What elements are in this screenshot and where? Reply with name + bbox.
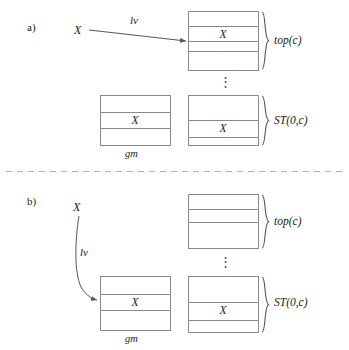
panel-a-st-box [189,96,259,146]
panel-b-source-var: X [73,201,80,213]
panel-b-gm-struct-label: gm [125,334,138,345]
panel-b-gm-cell-value: X [100,297,170,309]
panel-a-vertical-ellipsis: ⋮ [219,75,232,88]
panel-b-edge-label: lv [80,247,88,258]
panel-a-lv-arrow [89,30,186,41]
panel-b-lv-arrow [76,216,97,300]
panel-b-st-group-label: ST(0,c) [274,297,308,309]
panel-b-top-c-box [189,195,259,249]
panel-a-source-var: X [74,24,81,36]
panel-b-st-cell-value: X [188,305,258,317]
panel-a-edge-label: lv [130,15,138,26]
panel-a-label: a) [27,22,36,33]
panel-a-top-c-cell-value: X [188,29,258,41]
panel-a-st-group-label: ST(0,c) [274,115,308,127]
figure-root: a) X lv X top(c) ⋮ X gm X ST(0,c) b) X l… [0,0,349,350]
panel-a-gm-cell-value: X [100,115,170,127]
panel-a-gm-struct-label: gm [125,149,138,160]
panel-a-st-brace [262,96,269,145]
panel-b-label: b) [27,196,36,207]
panel-a-top-c-brace [262,12,269,69]
panel-a-top-c-group-label: top(c) [274,35,301,47]
panel-b-top-c-brace [262,195,269,248]
panel-b-top-c-group-label: top(c) [274,216,301,228]
panel-a-top-c-box [189,12,259,71]
panel-b-st-brace [262,277,269,332]
panel-b-vertical-ellipsis: ⋮ [219,255,232,268]
panel-a-st-cell-value: X [188,123,258,135]
